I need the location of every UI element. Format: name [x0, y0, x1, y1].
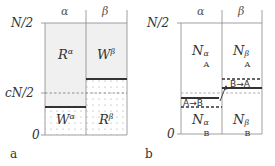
- label-r-alpha: Rα: [58, 47, 73, 62]
- panel-b-ytick-bottom: 0: [167, 127, 175, 141]
- panel-b-label: b: [145, 147, 153, 161]
- panel-a-ytick-mid: cN/2: [5, 86, 34, 100]
- panel-b-ytick-top: N/2: [147, 16, 169, 30]
- panel-a-col-beta: β: [102, 5, 108, 18]
- label-na-beta: NβA: [233, 44, 252, 57]
- panel-a-ytick-bottom: 0: [32, 128, 40, 142]
- region-r-alpha: [45, 23, 86, 107]
- label-w-beta: Wβ: [97, 47, 115, 62]
- panel-a: [41, 10, 127, 135]
- transition-b-to-a: B→A: [230, 79, 250, 89]
- label-nb-alpha: NαB: [192, 113, 211, 126]
- label-nb-beta: NβB: [233, 113, 252, 126]
- label-r-beta: Rβ: [99, 112, 113, 127]
- panel-a-label: a: [10, 147, 17, 161]
- label-na-alpha: NαA: [192, 44, 211, 57]
- panel-b-col-beta: β: [238, 5, 244, 18]
- transition-a-to-b: A→B: [183, 98, 203, 108]
- label-w-alpha: Wα: [56, 112, 75, 127]
- panel-b-col-alpha: α: [197, 5, 204, 18]
- panel-a-col-alpha: α: [61, 5, 68, 18]
- panel-a-ytick-top: N/2: [11, 16, 33, 30]
